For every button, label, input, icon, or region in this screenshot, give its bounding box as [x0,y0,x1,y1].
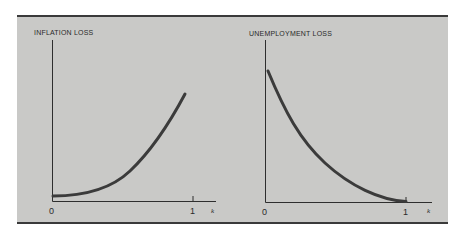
inflation-loss-chart: INFLATION LOSS 0 1 k [34,29,216,216]
loss-functions-figure: INFLATION LOSS 0 1 k UNEMPLOYMENT LOSS 0… [0,0,463,235]
x-tick-label-1: 1 [403,207,408,217]
unemployment-loss-curve [268,71,406,202]
origin-label: 0 [49,206,54,216]
x-axis-label-k: k [427,207,431,215]
unemployment-loss-chart: UNEMPLOYMENT LOSS 0 1 k [249,30,432,217]
inflation-loss-curve [53,94,185,196]
origin-label: 0 [262,207,267,217]
inflation-loss-title: INFLATION LOSS [34,29,94,36]
x-tick-label-1: 1 [190,206,195,216]
unemployment-loss-title: UNEMPLOYMENT LOSS [249,30,332,37]
x-axis-label-k: k [211,207,215,215]
